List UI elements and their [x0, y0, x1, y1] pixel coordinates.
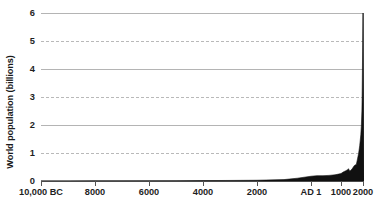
x-tick-AD 1	[311, 181, 312, 186]
x-tick-6000	[149, 181, 150, 186]
x-tick-10,000 BC	[41, 181, 42, 186]
x-tick-8000	[95, 181, 96, 186]
x-tick-label-2000: 2000	[247, 187, 267, 198]
y-tick-label-0: 0	[9, 176, 35, 186]
y-tick-label-4: 4	[9, 64, 35, 74]
y-tick-label-2: 2	[9, 120, 35, 130]
population-area-series	[41, 13, 364, 181]
area-fill	[41, 13, 364, 181]
y-tick-label-5: 5	[9, 36, 35, 46]
x-tick-label-2000: 2000	[353, 187, 373, 198]
world-population-chart: World population (billions) 0123456 10,0…	[0, 0, 381, 208]
x-tick-label-AD 1: AD 1	[301, 187, 322, 198]
x-tick-1000	[341, 181, 342, 186]
x-tick-label-8000: 8000	[85, 187, 105, 198]
x-tick-label-10,000 BC: 10,000 BC	[19, 187, 63, 198]
x-tick-label-4000: 4000	[193, 187, 213, 198]
x-tick-2000	[363, 181, 364, 186]
y-tick-label-1: 1	[9, 148, 35, 158]
x-tick-2000	[257, 181, 258, 186]
y-tick-label-3: 3	[9, 92, 35, 102]
x-tick-label-1000: 1000	[331, 187, 351, 198]
x-tick-label-6000: 6000	[139, 187, 159, 198]
y-tick-label-6: 6	[9, 8, 35, 18]
plot-area	[41, 13, 364, 181]
x-tick-4000	[203, 181, 204, 186]
